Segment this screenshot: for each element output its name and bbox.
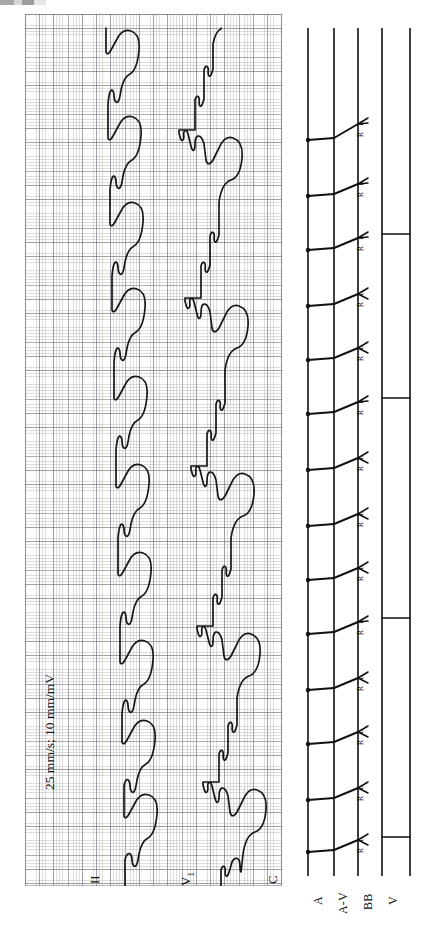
lead-V1-trace [25,14,282,886]
lead-label-C: C [265,875,281,884]
bundle-branch-label-4: R L [356,673,365,691]
bundle-branch-label-13: R L [356,179,365,197]
bundle-branch-label-6: R L [356,563,365,581]
ladder-row-label-atrium: A [311,896,326,905]
lead-label-V1: V1 [178,872,196,886]
bundle-branch-label-7: R L [356,509,365,527]
bundle-branch-label-12: R L [356,233,365,251]
ladder-row-label-bundle-branches: BB [361,894,376,910]
scan-edge-artifact [0,0,46,5]
bundle-branch-label-2: R L [356,783,365,801]
ladder-diagram-panel [296,14,422,886]
calibration-caption: 25 mm/s; 10 mm/mV [42,674,58,790]
bundle-branch-label-1: R L [356,835,365,853]
bundle-branch-label-5: R L [356,617,365,635]
bundle-branch-label-8: R L [356,453,365,471]
ladder-row-label-av-node: A-V [336,892,351,914]
bundle-branch-label-11: R L [356,289,365,307]
bundle-branch-label-9: R L [356,397,365,415]
lead-label-V1-text: V [178,877,193,886]
bundle-branch-label-10: R L [356,343,365,361]
ladder-row-label-ventricle: V [386,896,401,905]
lead-label-II: II [87,875,103,884]
lead-label-V1-subscript: 1 [186,872,196,877]
bundle-branch-label-14: R L [356,119,365,137]
ladder-diagram-svg [296,14,422,886]
ecg-graph-paper-panel [25,14,282,886]
bundle-branch-label-3: R L [356,727,365,745]
